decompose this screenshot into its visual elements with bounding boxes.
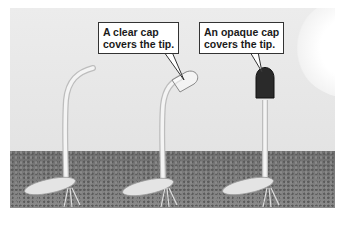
opaque-cap-icon bbox=[256, 68, 274, 99]
seedling-control bbox=[23, 68, 93, 207]
clear-cap-icon bbox=[172, 71, 198, 92]
opaque-cap-callout: An opaque cap covers the tip. bbox=[199, 22, 284, 54]
clear-cap-pointer bbox=[164, 52, 184, 80]
seedling-opaque-cap bbox=[221, 68, 279, 208]
opaque-cap-pointer bbox=[250, 52, 262, 72]
seedling-clear-cap bbox=[121, 71, 198, 207]
clear-cap-callout: A clear cap covers the tip. bbox=[98, 22, 179, 54]
